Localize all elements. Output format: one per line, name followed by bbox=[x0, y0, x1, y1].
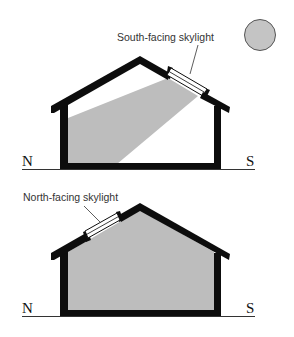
leader-line bbox=[190, 45, 198, 74]
south-label: S bbox=[246, 153, 254, 169]
sun-icon bbox=[245, 20, 276, 51]
skylight-diagram: South-facing skylight N S North-facing s… bbox=[0, 0, 294, 337]
bottom-panel: North-facing skylight N S bbox=[22, 191, 255, 317]
north-label: N bbox=[22, 300, 33, 316]
leader-line bbox=[84, 206, 100, 222]
roof-right-top bbox=[140, 56, 168, 80]
top-panel: South-facing skylight N S bbox=[22, 20, 276, 171]
north-skylight-label: North-facing skylight bbox=[23, 191, 118, 203]
south-skylight-label: South-facing skylight bbox=[117, 31, 214, 43]
north-label: N bbox=[22, 153, 33, 169]
south-label: S bbox=[246, 300, 254, 316]
diffuse-light-fill bbox=[68, 210, 214, 310]
